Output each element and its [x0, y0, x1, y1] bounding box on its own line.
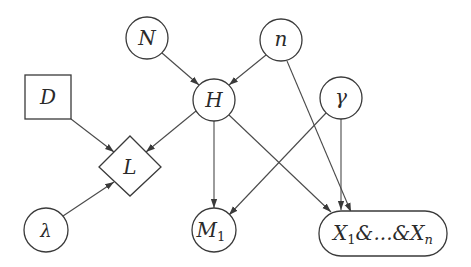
node-n-label: n [275, 27, 288, 51]
node-lambda: λ [24, 208, 68, 252]
node-D-label: D [39, 85, 56, 109]
node-gamma-label: γ [335, 85, 347, 109]
node-X-part-3: X [408, 221, 425, 245]
node-X-label: X1&...&Xn [331, 221, 433, 247]
node-M1-subscript: 1 [217, 229, 225, 244]
edge-n-to-H [229, 55, 266, 85]
node-M1-main: M [196, 218, 218, 242]
node-M1: M1 [192, 208, 236, 252]
edge-D-to-L [71, 119, 114, 152]
node-L-label: L [122, 155, 136, 179]
bayesian-network-diagram: N n H γ D L λ M1 X1&...&Xn [0, 0, 471, 267]
node-D: D [25, 75, 71, 119]
node-X-part-2: &...& [356, 221, 411, 245]
node-X: X1&...&Xn [319, 211, 447, 256]
node-X-sub-n: n [425, 232, 433, 247]
node-X-sub-1: 1 [347, 232, 355, 247]
node-gamma: γ [320, 77, 362, 119]
node-lambda-label: λ [39, 220, 51, 241]
edge-lambda-to-L [63, 182, 114, 216]
edge-H-to-L [146, 111, 196, 152]
node-H: H [193, 79, 235, 121]
node-N: N [126, 17, 168, 59]
node-N-label: N [137, 26, 157, 50]
node-H-label: H [204, 88, 223, 112]
node-X-part-1: X [331, 221, 348, 245]
node-L: L [99, 136, 161, 196]
edge-N-to-H [162, 53, 199, 85]
node-n: n [260, 19, 302, 61]
